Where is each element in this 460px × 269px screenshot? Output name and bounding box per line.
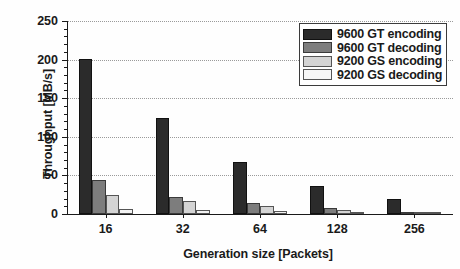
y-axis-line — [67, 21, 68, 214]
y-minor-tick — [64, 114, 67, 115]
bar — [260, 206, 274, 214]
x-tick — [337, 214, 338, 218]
y-minor-tick — [64, 199, 67, 200]
y-minor-tick — [64, 152, 67, 153]
y-tick — [62, 214, 67, 215]
throughput-bar-chart: Throughput [MB/s] Generation size [Packe… — [0, 0, 460, 269]
legend-item: 9200 GS decoding — [303, 68, 442, 81]
bar — [233, 162, 247, 214]
bar — [247, 203, 261, 214]
legend-label: 9600 GT decoding — [337, 41, 441, 55]
gridline — [67, 98, 453, 99]
bar — [324, 208, 338, 214]
y-minor-tick — [64, 183, 67, 184]
y-tick-label: 250 — [18, 14, 58, 28]
y-minor-tick — [64, 29, 67, 30]
legend-label: 9200 GS decoding — [337, 68, 442, 82]
x-tick-label: 16 — [76, 222, 136, 236]
x-tick-label: 64 — [230, 222, 290, 236]
y-minor-tick — [64, 75, 67, 76]
gridline — [67, 137, 453, 138]
legend-swatch — [303, 56, 332, 67]
y-tick-label: 0 — [18, 207, 58, 221]
y-minor-tick — [64, 36, 67, 37]
y-minor-tick — [64, 160, 67, 161]
legend-item: 9600 GT decoding — [303, 41, 442, 54]
y-tick-label: 200 — [18, 53, 58, 67]
y-minor-tick — [64, 67, 67, 68]
y-minor-tick — [64, 168, 67, 169]
y-tick — [62, 137, 67, 138]
bar — [183, 201, 197, 214]
bar — [119, 209, 133, 214]
x-tick-label: 256 — [384, 222, 444, 236]
legend-swatch — [303, 29, 332, 40]
x-axis-label: Generation size [Packets] — [60, 247, 456, 261]
bar — [169, 197, 183, 214]
y-minor-tick — [64, 90, 67, 91]
x-tick-label: 32 — [153, 222, 213, 236]
y-minor-tick — [64, 106, 67, 107]
y-tick — [62, 98, 67, 99]
bar — [92, 180, 106, 214]
bar — [337, 210, 351, 214]
x-tick — [260, 214, 261, 218]
x-tick — [414, 214, 415, 218]
legend-item: 9600 GT encoding — [303, 28, 442, 41]
x-tick — [183, 214, 184, 218]
legend-label: 9600 GT encoding — [337, 27, 441, 41]
y-tick — [62, 60, 67, 61]
bar — [387, 199, 401, 214]
legend-swatch — [303, 69, 332, 80]
y-minor-tick — [64, 44, 67, 45]
x-tick — [106, 214, 107, 218]
bar — [428, 212, 442, 214]
y-minor-tick — [64, 191, 67, 192]
bar — [106, 195, 120, 214]
chart-legend: 9600 GT encoding9600 GT decoding9200 GS … — [299, 23, 447, 86]
bar — [401, 212, 415, 214]
bar — [274, 211, 288, 214]
y-minor-tick — [64, 83, 67, 84]
y-minor-tick — [64, 145, 67, 146]
legend-item: 9200 GS encoding — [303, 55, 442, 68]
x-tick-label: 128 — [307, 222, 367, 236]
bar — [414, 212, 428, 214]
y-tick-label: 100 — [18, 130, 58, 144]
legend-swatch — [303, 42, 332, 53]
bar — [310, 186, 324, 214]
bar — [196, 210, 210, 214]
y-tick-label: 50 — [18, 168, 58, 182]
bar — [351, 212, 365, 214]
legend-label: 9200 GS encoding — [337, 54, 442, 68]
gridline — [67, 175, 453, 176]
y-minor-tick — [64, 206, 67, 207]
bar — [79, 59, 93, 214]
y-tick — [62, 175, 67, 176]
y-minor-tick — [64, 121, 67, 122]
bar — [156, 118, 170, 214]
y-tick — [62, 21, 67, 22]
y-minor-tick — [64, 52, 67, 53]
y-minor-tick — [64, 129, 67, 130]
y-tick-label: 150 — [18, 91, 58, 105]
gridline — [67, 21, 453, 22]
